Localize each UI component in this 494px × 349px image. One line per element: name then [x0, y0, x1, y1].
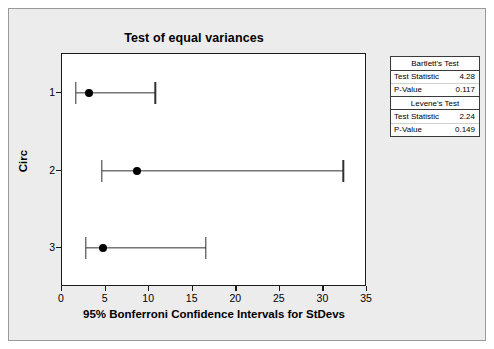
confidence-interval-lower-cap	[101, 160, 102, 182]
levene-statistic-row: Test Statistic 2.24	[391, 110, 479, 122]
x-axis-tick-label: 5	[102, 292, 108, 304]
y-axis-tick-label: 3	[49, 241, 55, 253]
confidence-interval-lower-cap	[75, 82, 76, 104]
bartlett-statistic-value: 4.28	[459, 72, 475, 81]
x-axis-tick	[192, 286, 193, 291]
levene-pvalue-row: P-Value 0.149	[391, 123, 479, 136]
x-axis-tick	[366, 286, 367, 291]
plot-inner	[62, 54, 365, 285]
chart-title: Test of equal variances	[9, 31, 379, 45]
x-axis-tick-label: 30	[317, 292, 329, 304]
x-axis-tick	[235, 286, 236, 291]
y-axis-tick	[56, 170, 61, 171]
data-point-marker	[85, 89, 93, 97]
y-axis-title: Circ	[17, 131, 29, 191]
x-axis-tick-label: 25	[273, 292, 285, 304]
x-axis-tick-labels: 05101520253035	[61, 292, 366, 306]
confidence-interval-lower-cap	[85, 237, 86, 259]
y-axis-ticks	[56, 53, 62, 286]
bartlett-test-heading: Bartlett's Test	[391, 57, 479, 71]
x-axis-tick	[148, 286, 149, 291]
data-point-marker	[133, 167, 141, 175]
levene-statistic-label: Test Statistic	[394, 112, 439, 121]
levene-test-block: Levene's Test Test Statistic 2.24 P-Valu…	[391, 96, 479, 136]
x-axis-tick-label: 15	[186, 292, 198, 304]
y-axis-tick-label: 1	[49, 86, 55, 98]
x-axis-tick	[279, 286, 280, 291]
x-axis-tick-label: 35	[360, 292, 372, 304]
bartlett-pvalue-row: P-Value 0.117	[391, 83, 479, 96]
x-axis-tick	[61, 286, 62, 291]
plot-area	[61, 53, 366, 286]
levene-pvalue-value: 0.149	[455, 125, 475, 134]
bartlett-pvalue-value: 0.117	[456, 85, 475, 94]
levene-pvalue-label: P-Value	[394, 125, 422, 134]
y-axis-tick	[56, 92, 61, 93]
x-axis-tick	[322, 286, 323, 291]
y-axis-tick-label: 2	[49, 164, 55, 176]
x-axis-tick-label: 10	[142, 292, 154, 304]
y-axis-tick-labels: 123	[29, 53, 55, 286]
data-point-marker	[99, 244, 107, 252]
figure-panel: Test of equal variances 05101520253035 9…	[8, 8, 486, 341]
x-axis-title: 95% Bonferroni Confidence Intervals for …	[9, 308, 419, 320]
confidence-interval-upper-cap	[155, 82, 156, 104]
levene-test-heading: Levene's Test	[391, 97, 479, 111]
x-axis-tick-label: 20	[229, 292, 241, 304]
levene-statistic-value: 2.24	[459, 112, 475, 121]
bartlett-statistic-label: Test Statistic	[394, 72, 439, 81]
x-axis-tick	[105, 286, 106, 291]
bartlett-pvalue-label: P-Value	[394, 85, 422, 94]
bartlett-statistic-row: Test Statistic 4.28	[391, 71, 479, 83]
bartlett-test-block: Bartlett's Test Test Statistic 4.28 P-Va…	[391, 57, 479, 96]
y-axis-tick	[56, 247, 61, 248]
statistics-table: Bartlett's Test Test Statistic 4.28 P-Va…	[390, 56, 480, 137]
x-axis-tick-label: 0	[58, 292, 64, 304]
confidence-interval-upper-cap	[205, 237, 206, 259]
confidence-interval-upper-cap	[343, 160, 344, 182]
